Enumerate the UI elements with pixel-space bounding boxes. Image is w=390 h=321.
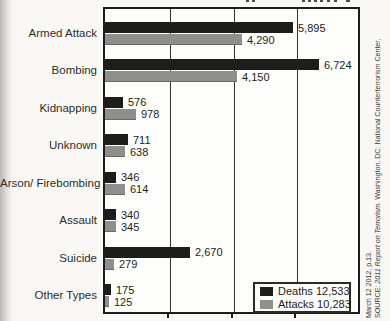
attacks-value-armed-attack: 4,290 [247,34,275,46]
deaths-bar-armed-attack [105,22,293,33]
gridline-4000 [234,9,235,312]
category-label-assault: Assault [0,214,97,227]
source-date-page: March 12 2012, p.13. [364,251,373,318]
legend-row-attacks: Attacks 10,283 [260,299,344,310]
cropped-text-remnant [320,0,323,2]
legend: Deaths 12,533 Attacks 10,283 [253,282,351,313]
source-prefix: SOURCE: [373,284,382,318]
deaths-value-unknown: 711 [133,134,151,146]
axis-tick-2000 [167,314,169,318]
deaths-bar-suicide [105,247,190,258]
deaths-value-bombing: 6,724 [324,59,352,71]
cropped-text-remnant [246,0,249,2]
attacks-swatch [260,300,273,309]
deaths-value-arson-firebombing: 346 [121,171,139,183]
deaths-bar-unknown [105,134,128,145]
legend-row-deaths: Deaths 12,533 [260,286,344,297]
deaths-value-kidnapping: 576 [128,96,146,108]
cropped-text-remnant [302,0,305,2]
category-label-bombing: Bombing [0,64,97,77]
deaths-bar-bombing [105,59,319,70]
attacks-bar-kidnapping [105,109,136,120]
attacks-bar-armed-attack [105,34,242,45]
cropped-text-remnant [314,0,317,2]
gridline-2000 [170,9,171,312]
attacks-value-other-types: 125 [114,296,132,308]
deaths-bar-assault [105,209,116,220]
source-citation-line1: SOURCE: 2011 Report on Terrorism. Washin… [373,39,382,318]
category-label-other-types: Other Types [0,289,97,302]
attacks-bar-arson-firebombing [105,184,125,195]
cropped-text-remnant [346,0,350,2]
attacks-value-suicide: 279 [119,258,137,270]
source-publisher: Washington, DC: National Counterterroris… [373,39,382,202]
cropped-text-remnant [308,0,311,2]
category-label-armed-attack: Armed Attack [0,27,97,40]
attacks-bar-suicide [105,259,114,270]
category-label-arson-firebombing: Arson/ Firebombing [0,177,97,190]
axis-tick-4000 [231,314,233,318]
legend-label-attacks: Attacks 10,283 [278,299,351,310]
cropped-text-remnant [334,0,337,2]
attacks-bar-assault [105,221,116,232]
deaths-bar-arson-firebombing [105,172,116,183]
deaths-swatch [260,287,273,296]
source-citation-line2: March 12 2012, p.13. [364,251,373,318]
attacks-value-bombing: 4,150 [242,71,270,83]
deaths-bar-kidnapping [105,97,123,108]
deaths-bar-other-types [105,284,111,295]
cropped-text-remnant [252,0,255,2]
deaths-value-assault: 340 [121,209,139,221]
attacks-bar-other-types [105,296,109,307]
deaths-value-armed-attack: 5,895 [298,22,326,34]
gridline-6000 [297,9,298,312]
chart-figure: Deaths 12,533 Attacks 10,283 SOURCE: 201… [0,0,390,321]
legend-label-deaths: Deaths 12,533 [278,286,350,297]
attacks-bar-bombing [105,71,237,82]
attacks-value-kidnapping: 978 [141,108,159,120]
axis-tick-6000 [294,314,296,318]
category-label-suicide: Suicide [0,252,97,265]
attacks-value-arson-firebombing: 614 [130,183,148,195]
category-label-kidnapping: Kidnapping [0,102,97,115]
attacks-value-unknown: 638 [130,146,148,158]
deaths-value-suicide: 2,670 [195,246,223,258]
cropped-text-remnant [327,0,330,2]
plot-area [103,7,360,314]
category-label-unknown: Unknown [0,139,97,152]
attacks-value-assault: 345 [121,221,139,233]
source-report-title: 2011 Report on Terrorism. [373,202,382,284]
deaths-value-other-types: 175 [116,284,134,296]
scan-shadow-left [0,0,12,321]
attacks-bar-unknown [105,146,125,157]
